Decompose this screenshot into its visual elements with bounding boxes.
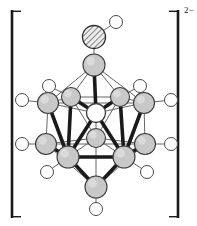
upper-belt-right-inner-v4 <box>111 88 130 107</box>
terminal-hydrogen-h8 <box>16 138 29 151</box>
upper-belt-left-inner-v3 <box>62 88 81 107</box>
apex-top-v1 <box>83 54 105 76</box>
lower-belt-left-v8 <box>36 134 57 155</box>
lower-belt-right-v11 <box>135 134 156 155</box>
terminal-hydrogen-h11 <box>165 138 178 151</box>
apex-bottom-v12 <box>85 176 107 198</box>
terminal-hydrogen-h3 <box>43 80 56 93</box>
upper-belt-front-open-v6 <box>87 104 106 123</box>
structure-figure: 2− <box>0 0 197 226</box>
terminal-hydrogen-h9 <box>41 166 54 179</box>
terminal-hydrogen-h4 <box>134 80 147 93</box>
terminal-hydrogen-h5 <box>165 94 178 107</box>
upper-belt-left-v2 <box>38 93 59 114</box>
terminal-hydrogen-h10 <box>141 166 154 179</box>
cluster-structure-svg <box>0 0 197 226</box>
upper-belt-right-v5 <box>134 93 155 114</box>
lower-belt-back-v7 <box>87 129 106 148</box>
charge-superscript-label: 2− <box>184 6 194 15</box>
terminal-hydrogen-h12 <box>90 203 103 216</box>
lower-belt-left-front-v9 <box>57 146 79 168</box>
lower-belt-right-front-v10 <box>113 146 135 168</box>
substituent-atom-sub1 <box>83 26 106 49</box>
terminal-hydrogen-h2 <box>16 94 29 107</box>
substituent-hydrogen-subH <box>110 16 123 29</box>
